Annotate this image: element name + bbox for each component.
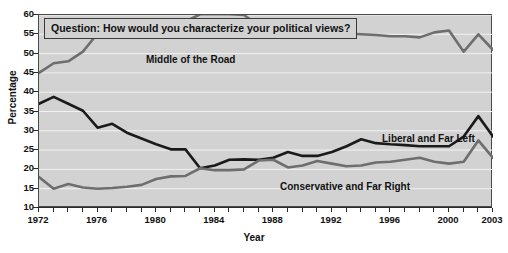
x-tick-mark — [67, 208, 68, 212]
x-tick-label: 1972 — [18, 214, 58, 225]
x-tick-mark — [97, 208, 98, 212]
x-tick-mark — [404, 208, 405, 212]
x-tick-label: 1996 — [369, 214, 409, 225]
x-tick-mark — [243, 208, 244, 212]
x-tick-label: 1984 — [194, 214, 234, 225]
x-tick-mark — [272, 208, 273, 212]
x-tick-mark — [389, 208, 390, 212]
x-tick-mark — [477, 208, 478, 212]
x-tick-label: 1988 — [252, 214, 292, 225]
y-tick-label: 25 — [4, 144, 34, 154]
x-axis-label: Year — [0, 232, 508, 243]
series-label-liberal-and-far-left: Liberal and Far Left — [382, 133, 475, 144]
x-tick-mark — [346, 208, 347, 212]
x-tick-label: 1980 — [135, 214, 175, 225]
x-tick-mark — [375, 208, 376, 212]
y-tick-label: 15 — [4, 183, 34, 193]
series-label-middle-of-the-road: Middle of the Road — [146, 54, 235, 65]
x-tick-mark — [316, 208, 317, 212]
x-tick-label: 2000 — [428, 214, 468, 225]
y-tick-label: 20 — [4, 163, 34, 173]
plot-svg — [39, 15, 493, 208]
series-label-conservative-and-far-right: Conservative and Far Right — [280, 181, 410, 192]
x-tick-mark — [53, 208, 54, 212]
y-tick-label: 55 — [4, 28, 34, 38]
x-tick-mark — [111, 208, 112, 212]
x-tick-mark — [170, 208, 171, 212]
x-tick-label: 2003 — [472, 214, 508, 225]
y-tick-label: 60 — [4, 9, 34, 19]
x-tick-mark — [126, 208, 127, 212]
x-tick-mark — [448, 208, 449, 212]
x-tick-mark — [214, 208, 215, 212]
y-tick-label: 10 — [4, 202, 34, 212]
political-views-line-chart: 1015202530354045505560 Percentage Year Q… — [0, 0, 508, 253]
y-axis-label: Percentage — [7, 58, 18, 138]
x-tick-mark — [184, 208, 185, 212]
x-tick-mark — [433, 208, 434, 212]
x-tick-mark — [199, 208, 200, 212]
x-tick-mark — [82, 208, 83, 212]
x-tick-mark — [141, 208, 142, 212]
x-tick-label: 1976 — [77, 214, 117, 225]
x-tick-mark — [419, 208, 420, 212]
series-line-2 — [39, 140, 493, 188]
chart-title: Question: How would you characterize you… — [44, 18, 357, 39]
x-tick-mark — [258, 208, 259, 212]
x-axis-line — [38, 207, 492, 208]
x-tick-mark — [155, 208, 156, 212]
x-tick-mark — [331, 208, 332, 212]
x-tick-label: 1992 — [311, 214, 351, 225]
x-tick-mark — [302, 208, 303, 212]
y-tick-label: 50 — [4, 48, 34, 58]
x-tick-mark — [287, 208, 288, 212]
x-tick-mark — [492, 208, 493, 212]
x-tick-mark — [38, 208, 39, 212]
x-tick-mark — [360, 208, 361, 212]
plot-area — [38, 14, 492, 207]
x-tick-mark — [463, 208, 464, 212]
x-tick-mark — [228, 208, 229, 212]
